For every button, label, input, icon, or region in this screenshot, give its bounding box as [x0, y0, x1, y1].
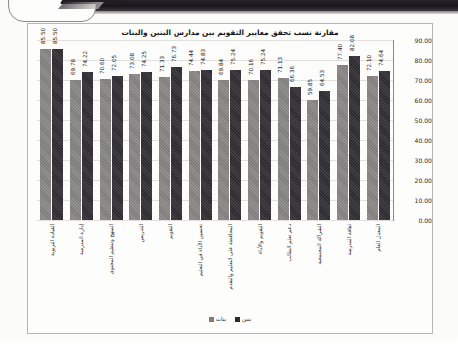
x-axis-category-label: إدارة المدرسة — [78, 224, 84, 255]
bar-بنات: 71.13 — [278, 78, 289, 220]
bar-data-label: 75.24 — [260, 49, 266, 65]
bar-بنين: 74.64 — [379, 71, 390, 220]
bar-data-label: 69.78 — [70, 59, 76, 75]
y-axis-tick-label: 60.00 — [415, 97, 432, 104]
y-axis-tick-label: 70.00 — [415, 77, 432, 84]
x-axis-label-cell: ثقافة المدرسة — [334, 224, 364, 310]
bar-groups: 85.5085.5069.7874.2270.6072.0573.0874.25… — [37, 40, 393, 220]
bar-data-label: 85.50 — [40, 28, 46, 44]
bar-بنات: 69.84 — [218, 80, 229, 220]
bar-group: 59.8564.53 — [304, 40, 334, 220]
bar-بنات: 70.60 — [100, 79, 111, 220]
gridline — [37, 220, 393, 221]
bar-data-label: 71.33 — [159, 56, 165, 72]
bar-group: 69.7874.22 — [67, 40, 97, 220]
bar-group: 71.3376.73 — [156, 40, 186, 220]
bar-data-label: 85.50 — [52, 28, 58, 44]
bar-بنين: 74.83 — [201, 70, 212, 220]
bar-group: 73.0874.25 — [126, 40, 156, 220]
x-axis-category-label: التقويم — [167, 224, 173, 239]
x-axis-category-label: دعم تعلم الطالب — [286, 224, 292, 262]
legend-label: بنين — [242, 316, 251, 322]
bar-بنات: 72.10 — [367, 76, 378, 220]
bar-بنين: 76.73 — [171, 67, 182, 220]
x-axis-category-label: الشراكة المجتمعية — [316, 224, 322, 264]
y-axis-tick-label: 30.00 — [415, 157, 432, 164]
bar-بنين: 74.25 — [141, 72, 152, 221]
bar-data-label: 74.22 — [82, 51, 88, 67]
bar-group: 72.1074.64 — [363, 40, 393, 220]
bar-data-label: 77.40 — [337, 44, 343, 60]
x-axis-category-label: ثقافة المدرسة — [346, 224, 352, 256]
bar-بنات: 70.16 — [248, 80, 259, 220]
bar-data-label: 82.08 — [349, 35, 355, 51]
y-axis-tick-label: 80.00 — [415, 57, 432, 64]
scanned-document-page: مقارنة نسب تحقق معايير التقويم بين مدارس… — [0, 0, 458, 344]
bar-data-label: 74.44 — [188, 50, 194, 66]
bar-بنين: 72.05 — [112, 76, 123, 220]
bar-بنين: 74.22 — [82, 72, 93, 220]
plot-area: 85.5085.5069.7874.2270.6072.0573.0874.25… — [37, 40, 394, 221]
x-axis-label-cell: التقويم — [156, 224, 186, 310]
bar-بنات: 71.33 — [159, 77, 170, 220]
bar-data-label: 71.13 — [277, 57, 283, 73]
x-axis-category-label: التقويم والأداء — [257, 224, 263, 254]
bar-group: 74.4474.83 — [185, 40, 215, 220]
bar-بنات: 59.85 — [307, 100, 318, 220]
bar-data-label: 75.24 — [230, 49, 236, 65]
x-axis-label-cell: الشراكة المجتمعية — [304, 224, 334, 310]
bar-group: 71.1366.36 — [274, 40, 304, 220]
chart-title: مقارنة نسب تحقق معايير التقويم بين مدارس… — [28, 28, 432, 37]
bar-بنات: 69.78 — [70, 80, 81, 220]
bar-بنات: 74.44 — [189, 71, 200, 220]
bar-بنين: 66.36 — [290, 87, 301, 220]
x-axis-category-label: المعدل العام — [375, 224, 381, 252]
bar-بنات: 85.50 — [40, 49, 51, 220]
bar-data-label: 72.10 — [366, 55, 372, 71]
page-corner-curl-artifact — [8, 0, 96, 22]
y-axis: 0.0010.0020.0030.0040.0050.0060.0070.008… — [396, 40, 432, 220]
x-axis-label-cell: دعم تعلم الطالب — [274, 224, 304, 310]
y-axis-tick-label: 50.00 — [415, 117, 432, 124]
bar-data-label: 74.25 — [141, 50, 147, 66]
legend-swatch — [209, 317, 214, 322]
y-axis-tick-label: 0.00 — [418, 217, 432, 224]
legend-item-بنين: بنين — [235, 316, 251, 322]
x-axis-label-cell: القيادة التربوية — [37, 224, 67, 310]
bar-بنين: 75.24 — [260, 70, 271, 220]
bar-group: 85.5085.50 — [37, 40, 67, 220]
y-axis-tick-label: 20.00 — [415, 177, 432, 184]
bar-group: 70.6072.05 — [96, 40, 126, 220]
bar-بنين: 85.50 — [52, 49, 63, 220]
bar-بنين: 82.08 — [349, 56, 360, 220]
x-axis-label-cell: المنهج وتنظيم المحتوى — [96, 224, 126, 310]
y-axis-tick-label: 90.00 — [415, 37, 432, 44]
legend-item-بنات: بنات — [209, 316, 226, 322]
x-axis-category-label: تحسين الأداء في التعليم — [197, 224, 203, 276]
x-axis-category-label: التدريس — [138, 224, 144, 242]
y-axis-tick-label: 40.00 — [415, 137, 432, 144]
bar-group: 70.1675.24 — [245, 40, 275, 220]
bar-data-label: 69.84 — [218, 59, 224, 75]
bar-data-label: 76.73 — [171, 46, 177, 62]
bar-بنات: 73.08 — [129, 74, 140, 220]
bar-group: 77.4082.08 — [334, 40, 364, 220]
bar-data-label: 66.36 — [289, 66, 295, 82]
bar-group: 69.8475.24 — [215, 40, 245, 220]
x-axis-category-label: المنهج وتنظيم المحتوى — [108, 224, 114, 274]
bar-data-label: 64.53 — [319, 70, 325, 86]
bar-بنين: 64.53 — [319, 91, 330, 220]
bar-data-label: 74.83 — [200, 49, 206, 65]
x-axis-label-cell: تحسين الأداء في التعليم — [185, 224, 215, 310]
x-axis-label-cell: المعدل العام — [363, 224, 393, 310]
x-axis-label-cell: التدريس — [126, 224, 156, 310]
x-axis-category-label: المحافظة على التعليم والتقدم — [227, 224, 233, 289]
bar-data-label: 70.60 — [99, 58, 105, 74]
y-axis-tick-label: 10.00 — [415, 197, 432, 204]
page-bottom-edge — [0, 336, 458, 344]
chart-container: مقارنة نسب تحقق معايير التقويم بين مدارس… — [27, 23, 433, 334]
x-axis-label-cell: المحافظة على التعليم والتقدم — [215, 224, 245, 310]
bar-data-label: 72.05 — [111, 55, 117, 71]
chart-legend: بناتبنين — [28, 316, 432, 322]
x-axis-label-cell: إدارة المدرسة — [67, 224, 97, 310]
